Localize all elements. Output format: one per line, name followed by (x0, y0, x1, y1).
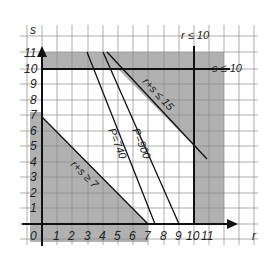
label-r-le-10: r ≤ 10 (181, 29, 210, 41)
svg-text:6: 6 (129, 229, 136, 243)
svg-text:2: 2 (29, 186, 37, 200)
label-s-le-10: s ≤ 10 (212, 62, 243, 74)
svg-text:5: 5 (30, 139, 37, 153)
svg-text:9: 9 (30, 77, 37, 91)
r-axis-label: r (252, 229, 257, 243)
label-p-900: P=900 (130, 126, 153, 161)
svg-text:2: 2 (67, 229, 75, 243)
svg-text:10: 10 (186, 229, 200, 243)
svg-text:7: 7 (144, 229, 152, 243)
label-p-740: P=740 (106, 126, 129, 161)
svg-text:8: 8 (30, 93, 37, 107)
svg-text:8: 8 (160, 229, 167, 243)
svg-text:9: 9 (175, 229, 182, 243)
shade-r-plus-s-above-15 (118, 69, 194, 146)
svg-text:3: 3 (84, 229, 91, 243)
svg-text:1: 1 (53, 229, 60, 243)
r-axis-arrow-icon (227, 219, 238, 229)
svg-text:11: 11 (24, 46, 36, 60)
svg-text:5: 5 (114, 229, 121, 243)
svg-text:6: 6 (30, 124, 37, 138)
s-axis-arrow-icon (37, 46, 47, 57)
svg-text:1: 1 (30, 201, 37, 215)
s-tick-labels: 1 2 3 4 5 6 7 8 9 10 11 (24, 46, 38, 215)
lp-graph: s r 0 1 2 3 4 5 6 7 8 9 10 11 1 2 3 4 5 … (0, 0, 280, 260)
s-axis-label: s (30, 23, 36, 37)
svg-text:10: 10 (24, 62, 38, 76)
svg-text:11: 11 (201, 229, 213, 243)
svg-text:4: 4 (99, 229, 106, 243)
svg-text:3: 3 (30, 170, 37, 184)
origin-label: 0 (30, 229, 37, 243)
svg-text:4: 4 (30, 155, 37, 169)
